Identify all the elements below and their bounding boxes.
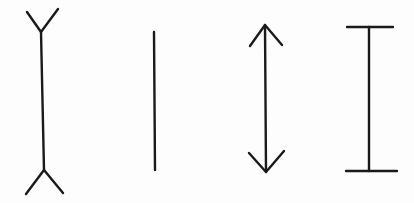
double-arrow-line-figure	[249, 25, 284, 172]
plain-shaft	[154, 32, 155, 170]
fins-out-line-figure	[26, 9, 63, 194]
arrow-shaft	[265, 25, 266, 172]
top-fins	[27, 9, 58, 32]
plain-line-figure	[154, 32, 155, 170]
bottom-fins	[26, 170, 63, 194]
fins-out-shaft	[41, 32, 44, 170]
illusion-diagram	[0, 0, 414, 203]
i-beam-line-figure	[346, 27, 397, 171]
